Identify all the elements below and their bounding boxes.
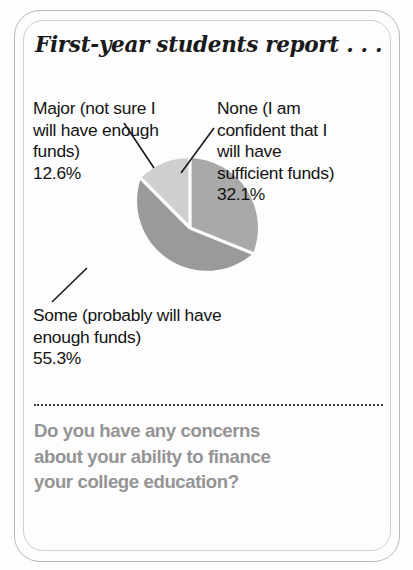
dotted-divider xyxy=(34,404,383,406)
pie-label-none-line6: funds) xyxy=(287,163,334,183)
survey-question: Do you have any concerns about your abil… xyxy=(34,418,387,495)
pie-label-some-line1: Some (probably will xyxy=(33,305,180,325)
pie-label-none-percent: 32.1% xyxy=(217,184,337,206)
scanned-page: First-year students report . . . xyxy=(0,0,413,570)
pie-label-none-line4: have xyxy=(245,141,282,161)
pie-label-some-percent: 55.3% xyxy=(33,348,233,370)
card-content: First-year students report . . . xyxy=(23,20,391,551)
pie-label-some: Some (probably will have enough funds) 5… xyxy=(33,305,233,370)
pie-label-major-percent: 12.6% xyxy=(33,163,173,185)
pie-label-major-line3: enough xyxy=(102,120,159,140)
pie-label-none: None (I am confident that I will have su… xyxy=(217,98,337,206)
survey-question-line2: about your ability to finance xyxy=(34,444,387,470)
pie-label-major-line4: funds) xyxy=(33,141,80,161)
pie-label-none-line5: sufficient xyxy=(217,163,283,183)
leader-line-some xyxy=(52,268,87,302)
pie-label-major-line1: Major (not sure xyxy=(33,98,146,118)
survey-question-line3: your college education? xyxy=(34,469,387,495)
pie-label-none-line2: confident xyxy=(217,120,285,140)
pie-label-none-line1: None (I am xyxy=(217,98,301,118)
survey-question-line1: Do you have any concerns xyxy=(34,418,387,444)
pie-label-major: Major (not sure I will have enough funds… xyxy=(33,98,173,184)
leader-line-none xyxy=(181,128,214,173)
